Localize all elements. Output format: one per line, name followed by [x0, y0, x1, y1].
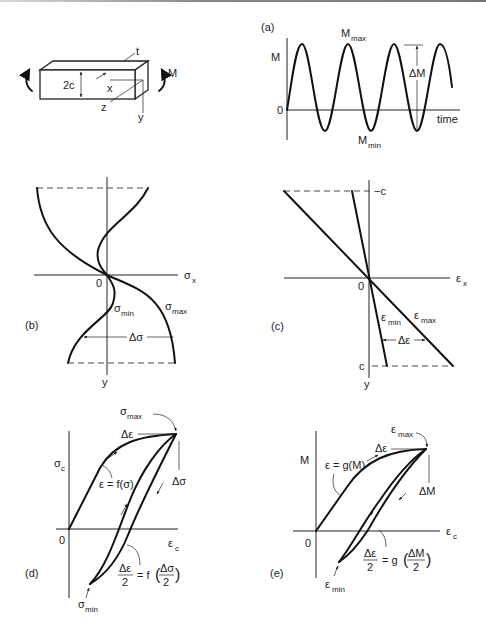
panel-d-unload-arrow: [157, 483, 163, 494]
panel-beam: 2c t x y z M: [26, 45, 177, 123]
panel-b-y-label: y: [102, 376, 108, 388]
panel-a-range-label: ΔM: [409, 67, 426, 79]
panel-e-tag: (e): [270, 567, 283, 579]
panel-e-min-pointer: [334, 566, 338, 576]
panel-b-tag: (b): [25, 319, 38, 331]
panel-e-moment-strain-loop: M ε c 0 (e) ε max Δε ΔM ε = g(M) Δε 2 = …: [270, 423, 457, 594]
panel-d-eq-rhs-num: Δσ: [160, 562, 174, 574]
panel-e-min-label: ε: [325, 578, 330, 590]
panel-c-top-c-label: −c: [374, 185, 386, 197]
panel-d-x-sub: c: [175, 544, 179, 553]
panel-a-max-sub: max: [351, 34, 366, 43]
panel-e-monotonic-pointer: [333, 474, 340, 495]
panel-d-eq-rhs-den: 2: [163, 576, 169, 588]
panel-b-x-label: σ: [184, 269, 191, 281]
panel-d-eq-rparen: ): [175, 566, 180, 583]
panel-d-y-sub: c: [61, 464, 65, 473]
panel-e-eq-mid: = g: [382, 554, 398, 566]
panel-b-min-sub: min: [121, 309, 134, 318]
panel-e-eq-lhs-den: 2: [367, 561, 373, 573]
panel-a-x-label: time: [437, 113, 458, 125]
panel-d-min-sub: min: [85, 605, 98, 614]
panel-b-x-sub: x: [192, 276, 196, 285]
panel-a-y-label: M: [271, 51, 280, 63]
panel-e-y-label: M: [300, 454, 309, 466]
panel-d-strain-range-label: Δε: [121, 428, 133, 440]
panel-d-y-label: σ: [54, 457, 61, 469]
panel-d-max-label: σ: [120, 405, 127, 417]
panel-b-min-label: σ: [114, 302, 121, 314]
panel-c-max-sub: max: [421, 316, 436, 325]
panel-b-max-sub: max: [172, 307, 187, 316]
panel-c-x-label: ε: [456, 272, 461, 284]
panel-c-bottom-c-label: c: [359, 360, 365, 372]
panel-e-strain-range-label: Δε: [375, 442, 387, 454]
panel-c-max-label: ε: [414, 309, 419, 321]
right-moment-arrow-icon: [159, 70, 165, 91]
panel-b-max-label: σ: [165, 300, 172, 312]
panel-a-sine-curve: [287, 44, 452, 131]
beam-top-face: [40, 61, 148, 70]
panel-a-origin: 0: [277, 104, 283, 116]
beam-moment-label: M: [168, 67, 177, 79]
panel-b-range-label: Δσ: [129, 331, 143, 343]
panel-d-max-pointer: [153, 414, 176, 431]
panel-c-x-sub: x: [463, 279, 467, 288]
panel-a-min-sub: min: [368, 141, 381, 150]
panel-d-x-label: ε: [168, 537, 173, 549]
panel-d-eq-lhs-num: Δε: [119, 562, 131, 574]
panel-d-monotonic-pointer: [103, 466, 112, 478]
panel-d-min-pointer: [86, 588, 89, 598]
panel-e-eq-rhs-den: 2: [413, 561, 419, 573]
panel-c-min-label: ε: [381, 311, 386, 323]
beam-thickness-label: t: [136, 45, 139, 57]
panel-e-cyclic-equation: Δε 2 = g ( ΔM 2 ): [363, 547, 431, 573]
thickness-leader: [124, 53, 135, 61]
panel-e-eq-lhs-num: Δε: [364, 547, 376, 559]
panel-d-stress-range-label: Δσ: [172, 475, 186, 487]
panel-b-origin: 0: [96, 277, 102, 289]
figure-canvas: 2c t x y z M (a) M 0 time M max M min ΔM: [0, 0, 486, 631]
panel-d-min-label: σ: [78, 598, 85, 610]
beam-x-label: x: [107, 82, 113, 94]
beam-height-label: 2c: [63, 79, 75, 91]
beam-z-label: z: [101, 101, 107, 113]
panel-e-moment-range-label: ΔM: [419, 485, 436, 497]
panel-a-max-label: M: [341, 27, 350, 39]
left-moment-arrow-icon: [26, 70, 32, 91]
panel-e-max-sub: max: [398, 430, 413, 439]
panel-a-min-label: M: [358, 134, 367, 146]
panel-e-min-sub: min: [332, 585, 345, 594]
panel-e-x-sub: c: [453, 532, 457, 541]
panel-e-eq-rparen: ): [426, 551, 431, 568]
panel-d-tag: (d): [25, 567, 38, 579]
panel-a-moment-history: (a) M 0 time M max M min ΔM: [261, 21, 460, 150]
panel-b-stress-distribution: σ x y 0 (b) σ min σ max Δσ: [25, 177, 196, 388]
panel-c-strain-distribution: −c c ε x y 0 (c) ε min ε max Δε: [271, 180, 467, 390]
panel-d-max-sub: max: [127, 412, 142, 421]
panel-c-y-label: y: [364, 378, 370, 390]
panel-d-monotonic-equation: ε = f(σ): [99, 478, 134, 490]
panel-e-origin: 0: [305, 537, 311, 549]
panel-e-monotonic-equation: ε = g(M): [325, 459, 365, 471]
panel-d-cyclic-equation: Δε 2 = f ( Δσ 2 ): [118, 562, 180, 588]
panel-c-range-label: Δε: [398, 334, 410, 346]
panel-e-cyclic-pointer: [379, 530, 386, 547]
panel-e-x-label: ε: [446, 525, 451, 537]
panel-c-tag: (c): [271, 320, 284, 332]
beam-y-label: y: [138, 111, 144, 123]
panel-d-origin: 0: [59, 534, 65, 546]
panel-c-origin: 0: [358, 280, 364, 292]
panel-d-stress-strain-loop: σ c ε c 0 (d) σ max Δε Δσ ε = f(σ) Δε 2 …: [25, 405, 186, 614]
panel-a-tag: (a): [261, 21, 274, 33]
panel-d-eq-lhs-den: 2: [122, 576, 128, 588]
panel-e-unload-arrow: [399, 493, 406, 500]
panel-e-max-pointer: [416, 433, 427, 447]
panel-c-min-sub: min: [388, 318, 401, 327]
panel-e-max-label: ε: [391, 423, 396, 435]
panel-d-eq-mid: = f: [137, 569, 150, 581]
panel-e-eq-rhs-num: ΔM: [408, 547, 425, 559]
